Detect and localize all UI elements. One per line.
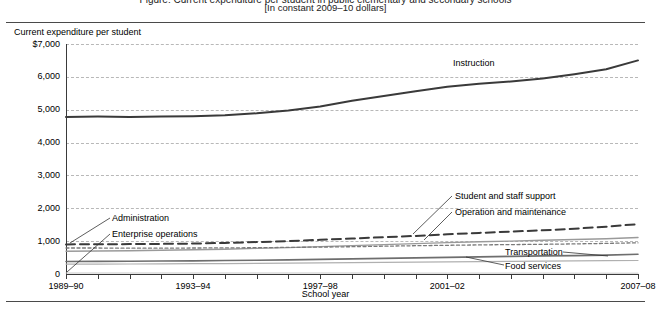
leader-student-staff-support: [413, 196, 452, 234]
x-axis-title: School year: [0, 289, 651, 299]
annotation-operation-maintenance: Operation and maintenance: [455, 207, 566, 217]
annotation-administration: Administration: [112, 213, 169, 223]
annotation-student-staff-support: Student and staff support: [455, 191, 555, 201]
annotation-transportation: Transportation: [505, 247, 563, 257]
annotation-enterprise-operations: Enterprise operations: [112, 229, 198, 239]
leader-food-services: [466, 257, 504, 265]
annotation-instruction: Instruction: [453, 58, 495, 68]
leader-transportation: [563, 252, 608, 256]
annotation-food-services: Food services: [505, 261, 561, 271]
footer-rule: [6, 301, 645, 302]
leader-operation-maintenance: [424, 212, 452, 240]
leader-enterprise-operations: [67, 234, 110, 272]
